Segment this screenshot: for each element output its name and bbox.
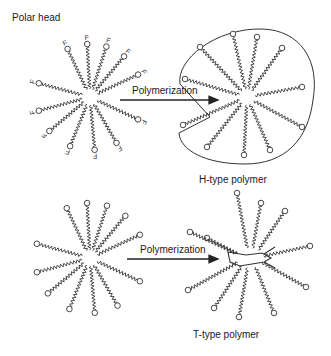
alkyl-chain [67, 212, 88, 251]
polar-head-icon [84, 200, 90, 206]
micelle-top-left: FFFFFFFFFFFF [28, 34, 148, 160]
alkyl-chain [262, 263, 304, 287]
polar-head-icon [267, 147, 273, 153]
alkyl-chain [86, 47, 91, 89]
polar-head-icon [64, 205, 70, 211]
alkyl-chain [97, 235, 136, 256]
alkyl-chain [97, 100, 134, 119]
polar-head-icon [121, 54, 127, 60]
polar-head-icon [45, 291, 51, 297]
polar-head-icon [254, 34, 260, 40]
polar-head-icon [115, 303, 121, 309]
polar-head-icon [36, 108, 42, 114]
polar-head-icon [47, 128, 53, 134]
alkyl-chain [70, 104, 87, 142]
polar-head-icon [34, 241, 40, 247]
polar-head-icon [65, 46, 71, 52]
alkyl-chain [255, 86, 299, 97]
alkyl-chain [86, 206, 91, 250]
polar-head-icon [303, 284, 309, 290]
h-type-polymer-label: H-type polymer [199, 174, 267, 185]
f-atom-label: F [28, 79, 36, 85]
alkyl-chain [97, 261, 138, 280]
polar-head-icon [211, 305, 217, 311]
polar-head-icon [271, 310, 277, 316]
polar-head-icon [36, 80, 42, 86]
polar-head-icon [180, 122, 186, 128]
polar-head-icon [67, 143, 73, 149]
polar-head-icon [299, 124, 305, 130]
polar-head-icon [34, 269, 40, 275]
polar-head-icon [241, 152, 247, 158]
f-atom-label: F [93, 153, 98, 160]
alkyl-chain [243, 105, 248, 152]
alkyl-chain [208, 103, 242, 144]
polar-head-icon [84, 41, 90, 47]
micelle-bottom-left [34, 200, 143, 315]
alkyl-chain [191, 262, 237, 290]
polar-head-icon [197, 44, 203, 50]
alkyl-chain [42, 83, 82, 96]
polar-head-icon [137, 232, 143, 238]
polar-head-icon [92, 147, 98, 153]
polar-head-icon [135, 117, 141, 123]
diagram-canvas: FFFFFFFFFFFF [0, 0, 331, 356]
f-atom-label: F [28, 109, 36, 115]
polar-head-icon [182, 76, 188, 82]
alkyl-chain [70, 265, 88, 306]
polar-head-icon [137, 278, 143, 284]
polar-head-icon [114, 140, 120, 146]
polymerization-label-bottom: Polymerization [140, 244, 206, 255]
alkyl-chain [238, 268, 248, 315]
alkyl-chain [92, 208, 107, 250]
alkyl-chain [255, 267, 274, 311]
f-atom-label: F [64, 148, 71, 156]
polar-head-icon [236, 314, 242, 320]
polar-head-icon [282, 208, 288, 214]
polar-head-icon [185, 287, 191, 293]
polar-head-icon [258, 200, 264, 206]
polar-head-icon [234, 190, 240, 196]
alkyl-chain [252, 206, 262, 248]
alkyl-chain [92, 50, 107, 90]
polar-head-icon [230, 31, 236, 37]
polar-head-icon [279, 45, 285, 51]
alkyl-chain [89, 105, 96, 147]
t-type-polymer-shape [185, 190, 313, 320]
alkyl-chain [89, 266, 96, 310]
t-type-polymer-label: T-type polymer [193, 329, 259, 340]
alkyl-chain [258, 213, 283, 251]
alkyl-chain [97, 75, 136, 94]
alkyl-chain [254, 101, 300, 126]
alkyl-chain [185, 99, 240, 124]
alkyl-chain [264, 245, 307, 257]
polar-head-label: Polar head [12, 12, 60, 23]
polar-head-icon [135, 72, 141, 78]
polar-head-icon [123, 213, 129, 219]
alkyl-chain [201, 49, 242, 91]
f-atom-label: F [85, 34, 90, 41]
alkyl-chain [68, 51, 87, 90]
alkyl-chain [95, 217, 124, 252]
h-type-polymer-shape [179, 29, 314, 164]
f-atom-label: F [105, 36, 111, 44]
polymerization-label-top: Polymerization [132, 85, 198, 96]
polar-head-icon [67, 306, 73, 312]
alkyl-chain [94, 104, 116, 141]
polar-head-icon [104, 44, 110, 50]
polar-head-icon [299, 84, 305, 90]
polar-head-icon [204, 144, 210, 150]
alkyl-chain [39, 243, 82, 256]
alkyl-chain [215, 266, 242, 306]
polar-head-icon [307, 243, 313, 249]
alkyl-chain [252, 51, 282, 91]
alkyl-chain [249, 104, 270, 146]
alkyl-chain [236, 196, 248, 249]
polar-head-icon [187, 229, 193, 235]
polar-head-icon [104, 203, 110, 209]
polar-head-icon [92, 310, 98, 316]
